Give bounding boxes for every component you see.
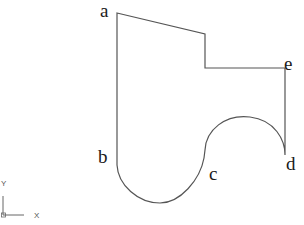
point-label-b: b (98, 146, 108, 167)
profile-outline (117, 13, 285, 203)
axis-y-label: Y (1, 179, 7, 188)
point-label-e: e (284, 53, 292, 74)
diagram-canvas: a b c d e Y X (0, 0, 304, 225)
point-label-c: c (209, 163, 217, 184)
point-label-d: d (286, 153, 296, 174)
shape-drawing: a b c d e Y X (0, 0, 304, 225)
ucs-axis-icon: Y X (1, 179, 40, 220)
axis-x-label: X (34, 211, 40, 220)
point-label-a: a (100, 0, 109, 21)
